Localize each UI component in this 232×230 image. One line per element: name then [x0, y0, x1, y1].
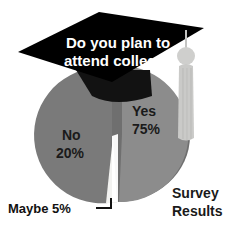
slice-label-maybe: Maybe 5%: [8, 201, 71, 216]
pie-explode-gap: [112, 134, 118, 202]
cap-tassel-icon: [177, 30, 195, 141]
graduation-cap-icon: Do you plan to attend college?: [18, 12, 204, 102]
chart-title-line2: attend college?: [64, 52, 174, 69]
tassel-bead: [177, 47, 195, 65]
slice-label-yes-value: 75%: [132, 121, 161, 137]
slice-label-no-name: No: [62, 127, 81, 143]
caption-line1: Survey: [172, 185, 219, 201]
pie-chart-graphic: Do you plan to attend college? Yes 75% N…: [0, 0, 232, 230]
chart-title-line1: Do you plan to: [66, 34, 170, 51]
caption-line2: Results: [172, 203, 223, 219]
slice-label-yes-name: Yes: [132, 103, 156, 119]
survey-infographic: Do you plan to attend college? Yes 75% N…: [0, 0, 232, 230]
slice-label-no-value: 20%: [56, 145, 85, 161]
tassel-strands: [178, 64, 194, 141]
